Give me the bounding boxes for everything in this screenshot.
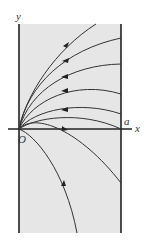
x-axis-label: x — [135, 123, 140, 134]
origin-label: O — [18, 134, 26, 145]
y-axis-label: y — [16, 11, 21, 22]
boundary-a-label: a — [124, 116, 130, 127]
